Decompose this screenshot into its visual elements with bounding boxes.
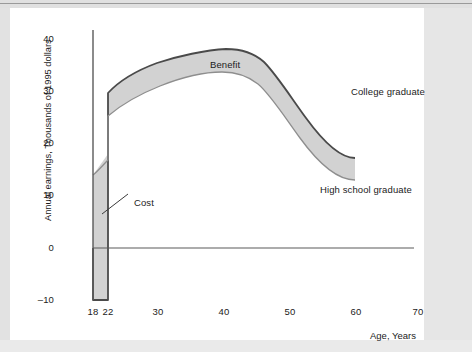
annotation-cost: Cost <box>134 197 154 208</box>
page-border-top <box>0 0 472 8</box>
x-tick-22: 22 <box>96 306 120 317</box>
x-tick-70: 70 <box>406 306 430 317</box>
figure-page: 40 30 20 10 0 –10 18 22 30 40 50 60 70 A… <box>0 0 472 352</box>
earnings-chart <box>10 8 424 340</box>
page-top-rule <box>0 3 472 4</box>
x-axis-title: Age, Years <box>370 330 416 341</box>
y-axis-title: Annual earnings, Thousands of 1995 dolla… <box>43 41 53 221</box>
x-tick-50: 50 <box>278 306 302 317</box>
chart-plate: 40 30 20 10 0 –10 18 22 30 40 50 60 70 A… <box>10 8 424 340</box>
annotation-college-graduate: College graduate <box>351 86 425 97</box>
x-tick-60: 60 <box>344 306 368 317</box>
annotation-benefit: Benefit <box>210 59 240 70</box>
page-border-bottom <box>0 340 472 352</box>
annotation-high-school-graduate: High school graduate <box>320 184 412 195</box>
x-tick-30: 30 <box>146 306 170 317</box>
y-tick-0: 0 <box>16 242 54 253</box>
page-border-left <box>0 0 10 352</box>
y-tick-minus10: –10 <box>10 294 54 305</box>
x-tick-40: 40 <box>212 306 236 317</box>
page-border-right <box>424 0 472 352</box>
cost-band-area <box>93 154 108 300</box>
